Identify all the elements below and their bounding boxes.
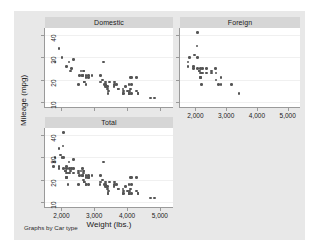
x-tick bbox=[61, 108, 62, 111]
data-point bbox=[68, 161, 71, 164]
data-point bbox=[62, 156, 65, 159]
y-tick-label: 30 bbox=[50, 57, 57, 71]
data-point bbox=[130, 176, 133, 179]
y-tick bbox=[41, 35, 44, 36]
data-point bbox=[99, 174, 102, 177]
y-axis-line bbox=[44, 28, 45, 108]
y-tick bbox=[176, 102, 179, 103]
data-point bbox=[113, 85, 116, 88]
panel-title-foreign: Foreign bbox=[180, 17, 300, 28]
plot-area-total bbox=[45, 128, 173, 207]
panel-domestic: Domestic bbox=[45, 17, 173, 107]
x-tick-label: 4,000 bbox=[119, 212, 135, 219]
data-point bbox=[87, 76, 90, 79]
y-tick bbox=[176, 57, 179, 58]
gridline bbox=[45, 135, 173, 136]
data-point bbox=[62, 131, 65, 134]
y-tick-label: 40 bbox=[50, 34, 57, 48]
x-axis-line bbox=[179, 107, 300, 108]
data-point bbox=[137, 92, 140, 95]
data-point bbox=[77, 183, 80, 186]
data-point bbox=[81, 74, 84, 77]
data-point bbox=[192, 65, 195, 68]
data-point bbox=[205, 67, 208, 70]
panel-title-domestic: Domestic bbox=[45, 17, 173, 28]
data-point bbox=[82, 179, 85, 182]
y-tick bbox=[176, 35, 179, 36]
data-point bbox=[205, 72, 208, 75]
x-tick-label: 2,000 bbox=[53, 212, 69, 219]
data-point bbox=[199, 76, 202, 79]
x-tick bbox=[127, 108, 128, 111]
data-point bbox=[200, 83, 203, 86]
data-point bbox=[137, 192, 140, 195]
data-point bbox=[117, 88, 120, 91]
data-point bbox=[201, 67, 204, 70]
data-point bbox=[72, 58, 75, 61]
data-point bbox=[85, 83, 88, 86]
y-tick bbox=[41, 80, 44, 81]
panel-total: Total bbox=[45, 117, 173, 207]
data-point bbox=[91, 74, 94, 77]
gridline bbox=[45, 102, 173, 103]
data-point bbox=[124, 85, 127, 88]
y-tick bbox=[41, 157, 44, 158]
data-point bbox=[108, 181, 111, 184]
x-tick bbox=[94, 208, 95, 211]
data-point bbox=[81, 174, 84, 177]
data-point bbox=[188, 56, 191, 59]
y-axis-line bbox=[44, 128, 45, 208]
data-point bbox=[102, 161, 105, 164]
figure-root: Domestic Foreign Total 102030402,0003,00… bbox=[0, 0, 319, 251]
data-point bbox=[65, 176, 68, 179]
data-point bbox=[58, 167, 61, 170]
x-tick-label: 3,000 bbox=[86, 212, 102, 219]
data-point bbox=[102, 61, 105, 64]
data-point bbox=[238, 92, 241, 95]
graph-note: Graphs by Car type bbox=[24, 224, 78, 231]
x-tick bbox=[160, 208, 161, 211]
gridline bbox=[45, 202, 173, 203]
data-point bbox=[129, 188, 132, 191]
y-tick bbox=[41, 202, 44, 203]
gridline bbox=[45, 35, 173, 36]
data-point bbox=[215, 72, 218, 75]
data-point bbox=[128, 192, 131, 195]
data-point bbox=[113, 183, 116, 186]
data-point bbox=[230, 83, 233, 86]
graph-canvas: Domestic Foreign Total 102030402,0003,00… bbox=[14, 11, 305, 240]
data-point bbox=[107, 192, 110, 195]
plot-area-foreign bbox=[180, 28, 300, 107]
data-point bbox=[107, 92, 110, 95]
data-point bbox=[214, 67, 217, 70]
data-point bbox=[135, 176, 138, 179]
x-tick bbox=[257, 108, 258, 111]
data-point bbox=[99, 74, 102, 77]
data-point bbox=[192, 67, 195, 70]
y-tick-label: 20 bbox=[50, 179, 57, 193]
data-point bbox=[153, 197, 156, 200]
data-point bbox=[187, 65, 190, 68]
x-tick bbox=[94, 108, 95, 111]
y-tick-label: 30 bbox=[50, 157, 57, 171]
data-point bbox=[83, 70, 86, 73]
data-point bbox=[187, 61, 190, 64]
data-point bbox=[72, 172, 75, 175]
data-point bbox=[61, 56, 64, 59]
data-point bbox=[196, 45, 199, 48]
data-point bbox=[153, 97, 156, 100]
x-tick bbox=[61, 208, 62, 211]
x-tick bbox=[195, 108, 196, 111]
gridline bbox=[180, 102, 300, 103]
y-tick bbox=[41, 102, 44, 103]
y-tick bbox=[41, 135, 44, 136]
data-point bbox=[117, 188, 120, 191]
data-point bbox=[129, 88, 132, 91]
data-point bbox=[220, 83, 223, 86]
data-point bbox=[99, 183, 102, 186]
x-tick-label: 5,000 bbox=[280, 112, 296, 119]
data-point bbox=[210, 72, 213, 75]
x-tick bbox=[127, 208, 128, 211]
y-tick-label: 10 bbox=[50, 102, 57, 116]
data-point bbox=[122, 192, 125, 195]
